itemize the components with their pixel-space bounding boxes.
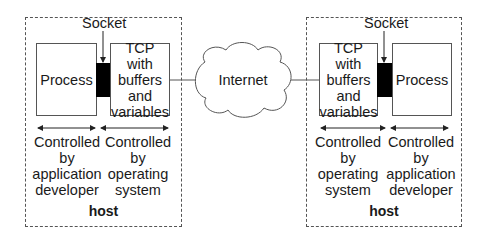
right-process-box: Process <box>392 43 452 116</box>
left-socket-label: Socket <box>82 15 126 31</box>
left-process-label: Process <box>40 72 92 88</box>
left-socket <box>96 63 110 97</box>
left-app-control-label: Controlled by application developer <box>32 134 102 198</box>
right-socket <box>377 63 392 97</box>
left-os-control-label: Controlled by operating system <box>104 134 172 198</box>
right-process-label: Process <box>396 72 448 88</box>
left-process-box: Process <box>36 43 97 116</box>
right-host-label: host <box>306 203 462 219</box>
right-socket-label: Socket <box>364 15 408 31</box>
left-host-label: host <box>25 203 182 219</box>
left-tcp-box: TCP with buffers and variables <box>110 43 170 116</box>
right-tcp-box: TCP with buffers and variables <box>319 43 378 116</box>
right-os-control-label: Controlled by operating system <box>314 134 382 198</box>
right-tcp-label: TCP with buffers and variables <box>319 40 377 120</box>
right-app-control-label: Controlled by application developer <box>386 134 456 198</box>
left-tcp-label: TCP with buffers and variables <box>111 40 169 120</box>
internet-label: Internet <box>213 72 273 88</box>
